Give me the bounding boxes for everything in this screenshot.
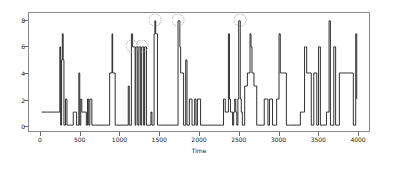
x-tick-label: 2500 <box>231 136 246 143</box>
x-tick-label: 0 <box>38 136 42 143</box>
step-series <box>29 13 369 131</box>
x-tick-label: 4000 <box>350 136 365 143</box>
x-tick-label: 1000 <box>112 136 127 143</box>
x-tick-label: 3000 <box>271 136 286 143</box>
y-tick-label: 4 <box>21 69 25 76</box>
y-tick-label: 2 <box>21 96 25 103</box>
y-tick-label: 0 <box>21 123 25 130</box>
y-tick-label: 6 <box>21 43 25 50</box>
y-tick-label: 8 <box>21 16 25 23</box>
series-path <box>42 21 357 125</box>
x-tick-label: 3500 <box>311 136 326 143</box>
x-tick-label: 500 <box>74 136 85 143</box>
x-axis-label: Time <box>192 147 207 154</box>
plot-area <box>28 12 370 132</box>
chart-figure: 02468 05001000150020002500300035004000 T… <box>0 0 398 177</box>
x-tick-label: 1500 <box>152 136 167 143</box>
x-tick-label: 2000 <box>191 136 206 143</box>
